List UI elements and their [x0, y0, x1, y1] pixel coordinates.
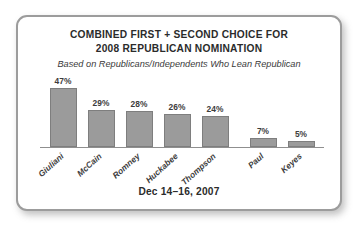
chart-title-line-2: 2008 REPUBLICAN NOMINATION [18, 42, 340, 56]
category-label-slot: Keyes [282, 149, 320, 191]
chart-title-block: COMBINED FIRST + SECOND CHOICE FOR 2008 … [18, 28, 340, 70]
chart-title-line-1: COMBINED FIRST + SECOND CHOICE FOR [18, 28, 340, 42]
bar-group: 7% [244, 77, 282, 147]
bar-value-label: 24% [207, 105, 224, 114]
category-label-text: Keyes [279, 151, 304, 175]
chart-card: COMBINED FIRST + SECOND CHOICE FOR 2008 … [16, 15, 342, 211]
category-label-slot: Thompson [196, 149, 234, 191]
bar-value-label: 47% [55, 77, 72, 86]
category-label-text: Giuliani [36, 151, 66, 179]
chart-subtitle: Based on Republicans/Independents Who Le… [18, 58, 340, 70]
category-axis-labels: GiulianiMcCainRomneyHuckabeeThompsonPaul… [44, 149, 320, 191]
bar-value-label: 7% [257, 127, 269, 136]
bar-value-label: 26% [169, 103, 186, 112]
bar-value-label: 28% [131, 100, 148, 109]
chart-date-footer: Dec 14–16, 2007 [18, 186, 340, 197]
bar-value-label: 29% [93, 99, 110, 108]
category-label-text: Paul [246, 151, 266, 170]
chart-card-inner: COMBINED FIRST + SECOND CHOICE FOR 2008 … [18, 17, 340, 209]
bar-value-label: 5% [295, 130, 307, 139]
category-label-slot: Paul [244, 149, 282, 191]
